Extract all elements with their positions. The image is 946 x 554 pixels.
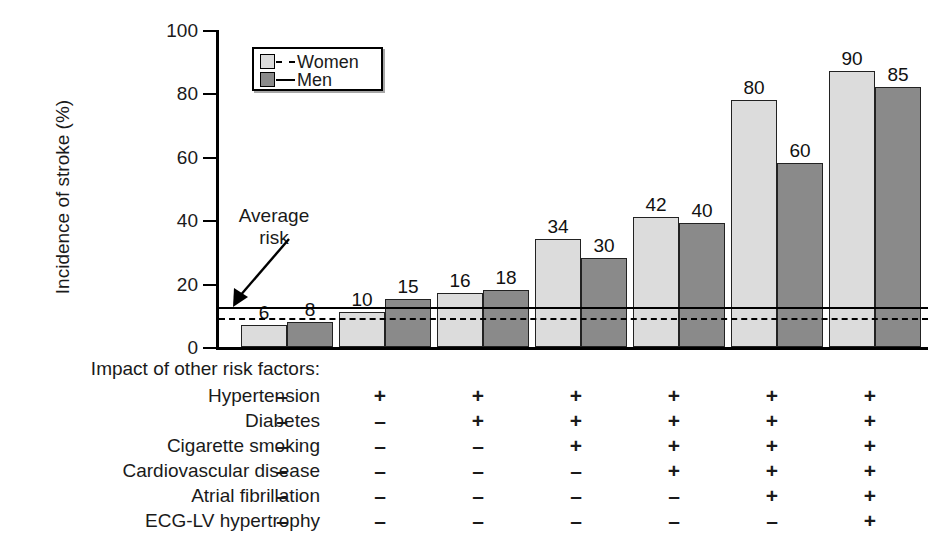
chart-root: Incidence of stroke (%) 100806040200 Wom… (0, 0, 946, 554)
matrix-cell: – (458, 486, 498, 505)
matrix-cell: – (360, 436, 400, 455)
matrix-cell: – (752, 511, 792, 530)
matrix-cell: + (850, 511, 890, 530)
matrix-cell: – (360, 511, 400, 530)
y-tick-label: 0 (130, 337, 198, 359)
matrix-cell: + (654, 386, 694, 405)
matrix-cell: + (752, 436, 792, 455)
matrix-cell: + (556, 436, 596, 455)
matrix-cell: + (850, 436, 890, 455)
matrix-cell: + (458, 386, 498, 405)
matrix-cell: – (360, 461, 400, 480)
matrix-cell: – (556, 511, 596, 530)
matrix-cell: – (262, 511, 302, 530)
matrix-cell: + (850, 411, 890, 430)
matrix-cell: + (360, 386, 400, 405)
reference-line-men (219, 307, 928, 309)
bar-value-label-men-5: 40 (679, 201, 725, 220)
matrix-cell: – (262, 411, 302, 430)
matrix-cell: + (850, 386, 890, 405)
matrix-cell: + (654, 461, 694, 480)
bar-women-2 (339, 312, 385, 347)
bar-value-label-men-7: 85 (875, 65, 921, 84)
reference-line-women (219, 318, 928, 320)
y-tick-mark (203, 30, 217, 32)
bar-value-label-men-3: 18 (483, 268, 529, 287)
y-tick-mark (203, 93, 217, 95)
matrix-cell: + (752, 461, 792, 480)
bar-value-label-women-2: 10 (339, 290, 385, 309)
bar-value-label-women-5: 42 (633, 195, 679, 214)
bar-women-7 (829, 71, 875, 347)
matrix-cell: – (458, 511, 498, 530)
matrix-cell: + (556, 411, 596, 430)
y-tick-label: 100 (130, 20, 198, 42)
matrix-cell: + (654, 411, 694, 430)
bar-men-5 (679, 223, 725, 347)
y-axis-title: Incidence of stroke (%) (52, 72, 74, 322)
matrix-cell: – (556, 486, 596, 505)
matrix-cell: – (262, 461, 302, 480)
y-tick-label: 20 (130, 274, 198, 296)
y-tick-mark (203, 157, 217, 159)
matrix-cell: + (752, 386, 792, 405)
matrix-cell: – (654, 511, 694, 530)
matrix-cell: – (262, 436, 302, 455)
bar-value-label-women-7: 90 (829, 49, 875, 68)
matrix-cell: + (850, 461, 890, 480)
y-tick-label: 40 (130, 210, 198, 232)
bar-men-4 (581, 258, 627, 347)
bar-women-5 (633, 217, 679, 347)
bar-value-label-women-4: 34 (535, 217, 581, 236)
matrix-cell: – (360, 411, 400, 430)
y-tick-label: 80 (130, 83, 198, 105)
matrix-cell: – (262, 386, 302, 405)
bar-men-1 (287, 322, 333, 347)
y-tick-label: 60 (130, 147, 198, 169)
matrix-cell: – (360, 486, 400, 505)
bar-value-label-men-6: 60 (777, 141, 823, 160)
matrix-cell: – (262, 486, 302, 505)
matrix-cell: + (556, 386, 596, 405)
bar-value-label-women-6: 80 (731, 78, 777, 97)
matrix-cell: + (752, 411, 792, 430)
matrix-cell: – (654, 486, 694, 505)
bar-women-1 (241, 325, 287, 347)
x-axis-line (216, 347, 928, 350)
bar-women-4 (535, 239, 581, 347)
risk-factor-matrix: Impact of other risk factors: Hypertensi… (0, 358, 946, 548)
matrix-cell: + (752, 486, 792, 505)
bar-value-label-women-3: 16 (437, 271, 483, 290)
y-tick-mark (203, 284, 217, 286)
matrix-cell: + (458, 411, 498, 430)
bar-value-label-men-2: 15 (385, 277, 431, 296)
y-tick-mark (203, 347, 217, 349)
matrix-cell: – (556, 461, 596, 480)
matrix-heading: Impact of other risk factors: (20, 358, 320, 380)
bar-women-6 (731, 100, 777, 347)
plot-area: 68101516183430424080609085 (219, 30, 928, 347)
matrix-cell: – (458, 461, 498, 480)
y-tick-mark (203, 220, 217, 222)
matrix-cell: + (654, 436, 694, 455)
bar-value-label-men-4: 30 (581, 236, 627, 255)
matrix-cell: – (458, 436, 498, 455)
matrix-cell: + (850, 486, 890, 505)
